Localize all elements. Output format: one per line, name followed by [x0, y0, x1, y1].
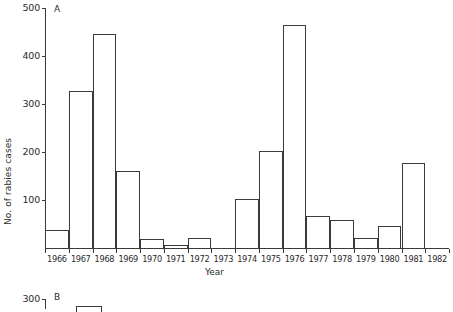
panel-b-letter: B	[54, 292, 60, 302]
bar-1966	[45, 230, 69, 248]
x-tick-1976	[283, 249, 284, 253]
bar-1972	[188, 238, 212, 248]
x-tick-1967	[69, 249, 70, 253]
bar-1978	[330, 220, 354, 248]
x-tick-1978	[330, 249, 331, 253]
x-tick-1970	[140, 249, 141, 253]
bar-1977	[306, 216, 330, 248]
x-tick-1981	[402, 249, 403, 253]
y-tick-500	[42, 8, 46, 9]
y-tick-400	[42, 56, 46, 57]
x-tick-1969	[116, 249, 117, 253]
y-tick-label-400: 400	[6, 50, 40, 61]
x-tick-1977	[306, 249, 307, 253]
x-tick-label-1982: 1982	[423, 254, 451, 264]
panel-b-bar-partial	[76, 306, 102, 312]
panel-b-y-tick-label-300: 300	[6, 293, 40, 304]
bar-1981	[402, 163, 426, 248]
bar-1967	[69, 91, 93, 248]
x-tick-1974	[235, 249, 236, 253]
bar-1970	[140, 239, 164, 248]
x-tick-1980	[378, 249, 379, 253]
x-tick-1973	[211, 249, 212, 253]
panel-a-letter: A	[54, 4, 60, 14]
x-tick-end	[449, 249, 450, 253]
panel-a: A 500 400 300 200 100 No. of rabies case…	[0, 0, 453, 285]
y-tick-200	[42, 152, 46, 153]
y-axis-line	[45, 8, 46, 249]
bar-1975	[259, 151, 283, 248]
x-tick-1979	[354, 249, 355, 253]
x-tick-1971	[164, 249, 165, 253]
x-tick-1968	[93, 249, 94, 253]
y-axis-title: No. of rabies cases	[3, 138, 13, 225]
bar-1974	[235, 199, 259, 248]
y-tick-label-500: 500	[6, 2, 40, 13]
bar-1968	[93, 34, 117, 248]
y-tick-label-300: 300	[6, 98, 40, 109]
bar-1980	[378, 226, 402, 248]
y-tick-100	[42, 200, 46, 201]
panel-b-y-axis-line	[45, 299, 46, 309]
bar-1979	[354, 238, 378, 248]
bar-1969	[116, 171, 140, 248]
x-tick-1982	[425, 249, 426, 253]
y-tick-300	[42, 104, 46, 105]
bar-1976	[283, 25, 307, 248]
bar-1971	[164, 245, 188, 248]
x-tick-1975	[259, 249, 260, 253]
x-axis-line	[45, 248, 449, 249]
panel-b: 300 B	[0, 268, 453, 309]
x-tick-1966	[45, 249, 46, 253]
x-tick-1972	[188, 249, 189, 253]
